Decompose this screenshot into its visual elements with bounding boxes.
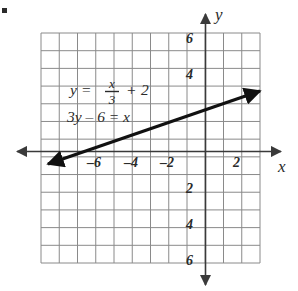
plotted-line bbox=[48, 91, 260, 164]
x-tick-label-neg4: –4 bbox=[123, 155, 138, 170]
equation-primary: y = x 3 + 2 bbox=[68, 76, 149, 107]
y-tick-label-pos4: 4 bbox=[185, 67, 193, 82]
y-tick-label-neg6: 6 bbox=[186, 253, 193, 268]
equation-fraction-numerator: x bbox=[108, 76, 115, 91]
x-tick-label-neg2: –2 bbox=[159, 155, 174, 170]
equation-lhs: y bbox=[68, 81, 77, 98]
x-tick-label-pos2: 2 bbox=[232, 155, 240, 170]
y-tick-label-neg2: 2 bbox=[185, 181, 193, 196]
equation-constant: 2 bbox=[141, 81, 149, 98]
equation-plus-sign: + bbox=[126, 81, 136, 98]
equation-fraction-denominator: 3 bbox=[108, 92, 116, 107]
x-tick-label-neg6: –6 bbox=[86, 155, 101, 170]
y-axis-letter: y bbox=[213, 5, 223, 24]
grid-lines bbox=[41, 33, 260, 263]
equation-secondary: 3y – 6 = x bbox=[66, 108, 130, 125]
graph-canvas: y x –6 –4 –2 2 6 4 2 4 6 y = x 3 + 2 3y … bbox=[0, 0, 298, 291]
coordinate-grid-figure: y x –6 –4 –2 2 6 4 2 4 6 y = x 3 + 2 3y … bbox=[0, 0, 298, 291]
equation-equals-sign: = bbox=[81, 81, 91, 98]
y-tick-label-neg4: 4 bbox=[185, 217, 193, 232]
y-tick-label-pos6: 6 bbox=[186, 31, 193, 46]
x-axis-letter: x bbox=[277, 157, 286, 176]
